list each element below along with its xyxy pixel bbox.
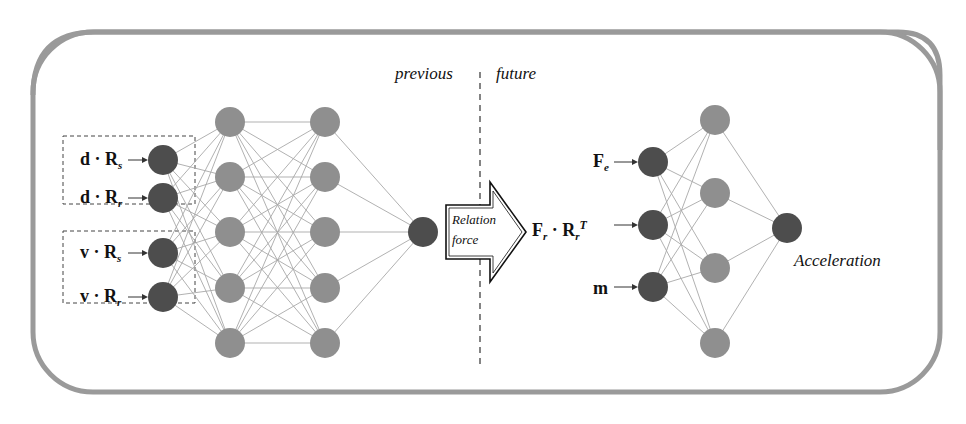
- input-label-Fe: Fe: [593, 151, 609, 173]
- arrowhead-icon: [632, 159, 638, 165]
- arrowhead-icon: [632, 284, 638, 290]
- right-network-node-layer2: [772, 213, 802, 243]
- arrowhead-icon: [142, 294, 148, 300]
- left-network-node-layer2: [310, 217, 340, 247]
- input-label-v-Rr: v · Rr: [80, 286, 121, 308]
- future-label: future: [496, 64, 536, 84]
- arrowhead-icon: [142, 195, 148, 201]
- right-network-node-layer0: [638, 272, 668, 302]
- left-network-node-layer2: [310, 107, 340, 137]
- right-network-edge: [715, 228, 787, 343]
- left-network-node-layer2: [310, 328, 340, 358]
- left-network-edge: [325, 177, 423, 232]
- left-network-node-layer1: [215, 273, 245, 303]
- input-label-v-Rs: v · Rs: [80, 242, 121, 264]
- input-label-d-Rs: d · Rs: [80, 149, 122, 171]
- input-label-m: m: [593, 278, 608, 299]
- left-network-node-layer0: [148, 282, 178, 312]
- rounded-frame: [33, 32, 940, 150]
- left-network-node-layer1: [215, 107, 245, 137]
- left-network-node-layer3: [408, 217, 438, 247]
- right-network-node-layer1: [700, 253, 730, 283]
- right-network-node-layer0: [638, 147, 668, 177]
- input-label-Fr-RrT: Fr · RrT: [532, 218, 587, 242]
- left-network-node-layer2: [310, 273, 340, 303]
- arrowhead-icon: [142, 250, 148, 256]
- relation-force-label-line1: Relation: [452, 212, 496, 228]
- left-network-edge: [325, 232, 423, 288]
- left-network-node-layer0: [148, 145, 178, 175]
- right-network-node-layer0: [638, 210, 668, 240]
- left-network-node-layer0: [148, 183, 178, 213]
- left-network-node-layer0: [148, 238, 178, 268]
- right-network-node-layer1: [700, 105, 730, 135]
- relation-force-label-line2: force: [452, 232, 478, 248]
- input-label-d-Rr: d · Rr: [80, 187, 122, 209]
- right-network-node-layer1: [700, 328, 730, 358]
- right-network-edge: [715, 120, 787, 228]
- right-network-node-layer1: [700, 178, 730, 208]
- acceleration-label: Acceleration: [794, 251, 881, 271]
- arrowhead-icon: [632, 222, 638, 228]
- previous-label: previous: [395, 64, 453, 84]
- left-network-node-layer1: [215, 162, 245, 192]
- left-network-node-layer2: [310, 162, 340, 192]
- left-network-node-layer1: [215, 217, 245, 247]
- arrowhead-icon: [142, 157, 148, 163]
- left-network-node-layer1: [215, 328, 245, 358]
